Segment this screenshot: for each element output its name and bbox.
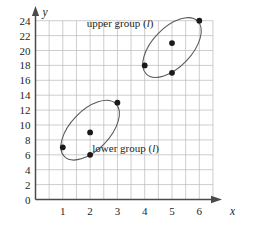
y-tick-label: 22 <box>20 30 31 42</box>
data-point <box>60 144 66 150</box>
y-tick-label: 14 <box>20 89 32 101</box>
y-tick-label: 20 <box>20 45 32 57</box>
lower-group-label: lower group (l) <box>92 142 159 155</box>
scatter-plot-figure: 024681012141618202224 123456 y x upper g… <box>0 0 254 229</box>
x-axis-arrow-icon <box>211 196 222 204</box>
y-tick-label: 6 <box>25 149 31 161</box>
y-axis-label: y <box>42 6 49 19</box>
y-tick-label: 12 <box>20 104 31 116</box>
y-tick-label: 16 <box>20 74 32 86</box>
y-tick-label: 10 <box>20 119 32 131</box>
upper-group-label: upper group (l) <box>87 17 154 30</box>
horizontal-gridlines <box>36 21 213 200</box>
data-point <box>115 100 121 106</box>
data-point <box>87 152 93 158</box>
y-tick-label: 8 <box>25 134 31 146</box>
x-tick-label: 5 <box>169 205 175 217</box>
data-point <box>169 70 175 76</box>
y-tick-label: 4 <box>25 164 31 176</box>
x-tick-label: 6 <box>197 205 203 217</box>
data-point <box>87 130 93 136</box>
x-tick-label: 2 <box>87 205 93 217</box>
data-point <box>196 18 202 24</box>
data-point <box>169 40 175 46</box>
y-tick-label: 24 <box>20 15 32 27</box>
y-tick-label: 0 <box>25 194 31 206</box>
y-axis-arrow-icon <box>32 6 39 16</box>
x-tick-label: 4 <box>142 205 148 217</box>
y-tick-label: 18 <box>20 59 32 71</box>
y-tick-label: 2 <box>25 179 31 191</box>
y-axis-tick-labels: 024681012141618202224 <box>20 15 32 206</box>
x-axis-tick-labels: 123456 <box>60 205 203 217</box>
x-tick-label: 3 <box>115 205 121 217</box>
plot-canvas: 024681012141618202224 123456 y x upper g… <box>0 0 254 229</box>
x-axis-label: x <box>229 205 236 217</box>
data-point <box>142 63 148 69</box>
x-tick-label: 1 <box>60 205 66 217</box>
group-annotations: upper group (l)lower group (l) <box>87 17 159 155</box>
